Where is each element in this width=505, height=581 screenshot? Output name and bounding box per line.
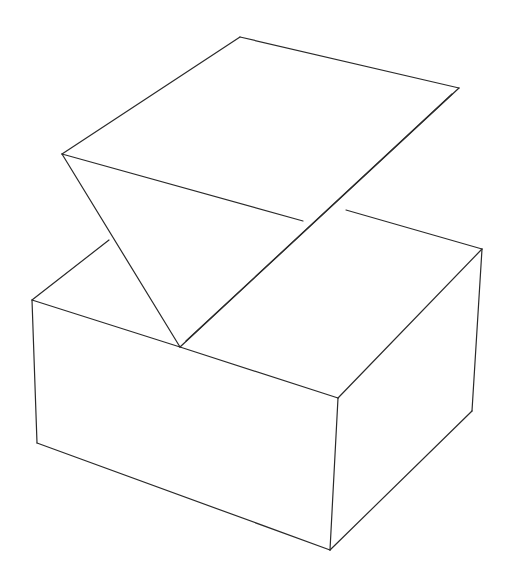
box-edge bbox=[330, 411, 472, 550]
folded-plane-edge bbox=[62, 37, 240, 154]
box-edge bbox=[32, 240, 109, 300]
box-shape bbox=[32, 210, 482, 550]
folded-plane-edge bbox=[240, 37, 459, 88]
box-edge bbox=[338, 249, 482, 398]
box-edge bbox=[346, 210, 482, 249]
figure-canvas bbox=[0, 0, 505, 581]
box-edge bbox=[32, 300, 37, 443]
box-edge bbox=[330, 398, 338, 550]
folded-plane-edge bbox=[62, 154, 303, 221]
box-and-wedge-drawing bbox=[0, 0, 505, 581]
box-edge bbox=[472, 249, 482, 411]
box-edge bbox=[180, 347, 338, 398]
folded-plane-edge bbox=[186, 94, 452, 341]
folded-plane-edge bbox=[62, 154, 180, 347]
folded-plane-shape bbox=[62, 37, 459, 347]
box-edge bbox=[37, 443, 330, 550]
box-edge bbox=[32, 300, 180, 347]
